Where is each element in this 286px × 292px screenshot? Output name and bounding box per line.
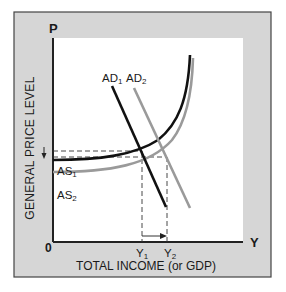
x-axis-title: TOTAL INCOME (or GDP) xyxy=(76,259,216,273)
y-axis-letter: P xyxy=(49,21,58,36)
plot-area xyxy=(53,38,243,242)
aggregate-supply-demand-diagram: P Y 0 GENERAL PRICE LEVEL TOTAL INCOME (… xyxy=(0,0,286,292)
origin-label: 0 xyxy=(45,241,52,255)
x-axis-letter: Y xyxy=(250,235,259,250)
y-axis-title: GENERAL PRICE LEVEL xyxy=(23,76,37,219)
